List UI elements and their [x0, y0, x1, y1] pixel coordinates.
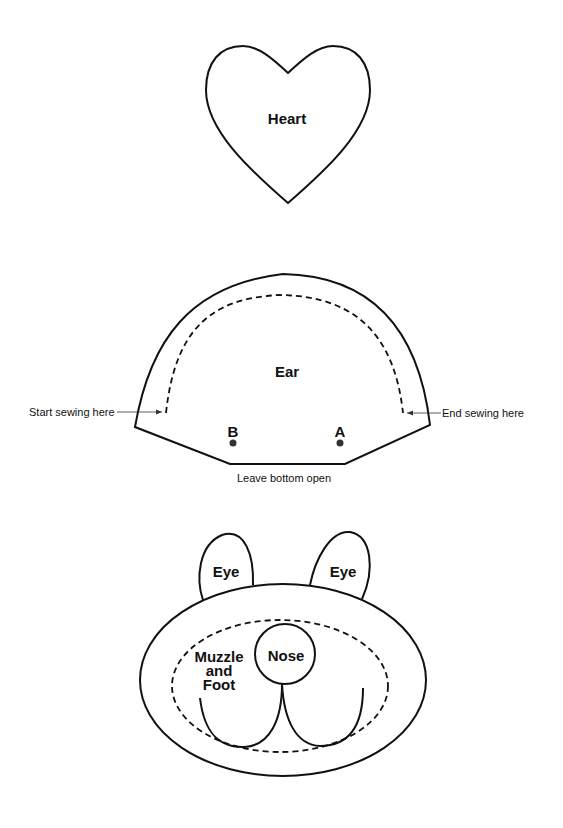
leave-bottom-open-note: Leave bottom open: [237, 472, 331, 484]
point-a-dot: [337, 440, 344, 447]
nose-label: Nose: [268, 647, 305, 664]
ear-stitch-line: [166, 295, 403, 413]
mouth-left-curve: [200, 684, 282, 747]
point-b-dot: [230, 440, 237, 447]
eye-left-label: Eye: [213, 563, 240, 580]
point-a-label: A: [335, 423, 346, 440]
heart-label: Heart: [268, 110, 306, 127]
end-arrow-head: [407, 411, 413, 416]
ear-label: Ear: [275, 363, 299, 380]
start-sewing-note: Start sewing here: [29, 406, 115, 418]
muzzle-label: Muzzle and Foot: [194, 650, 243, 692]
point-b-label: B: [228, 423, 239, 440]
eye-right-label: Eye: [330, 563, 357, 580]
end-sewing-note: End sewing here: [442, 407, 524, 419]
muzzle-label-line3: Foot: [194, 678, 243, 692]
start-arrow-head: [156, 410, 162, 415]
